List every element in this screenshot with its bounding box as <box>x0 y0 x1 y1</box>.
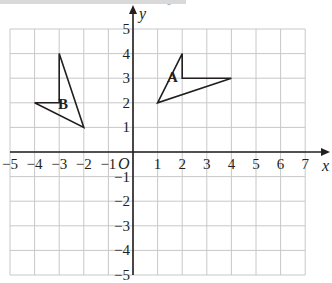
y-tick-label: −3 <box>114 218 130 234</box>
x-axis-label: x <box>321 157 329 174</box>
x-tick-label: −5 <box>2 156 18 172</box>
y-axis-arrow-icon <box>129 5 137 14</box>
x-tick-label: 1 <box>154 156 162 172</box>
y-tick-label: −1 <box>114 169 130 185</box>
x-tick-label: −2 <box>76 156 92 172</box>
x-tick-label: 6 <box>277 156 285 172</box>
y-axis-label: y <box>137 5 147 23</box>
y-tick-label: 5 <box>123 21 131 37</box>
x-tick-label: 3 <box>203 156 211 172</box>
x-tick-label: −4 <box>27 156 43 172</box>
y-tick-label: 4 <box>123 46 131 62</box>
x-axis-arrow-icon <box>321 148 330 156</box>
x-tick-label: 2 <box>178 156 186 172</box>
x-tick-label: −3 <box>51 156 67 172</box>
y-tick-label: 3 <box>123 70 131 86</box>
x-tick-label: 5 <box>252 156 260 172</box>
x-tick-label: 4 <box>228 156 236 172</box>
y-tick-label: 1 <box>123 119 131 135</box>
shape-label-b: B <box>58 96 68 112</box>
y-tick-label: −4 <box>114 242 130 258</box>
x-tick-label: 7 <box>301 156 309 172</box>
coordinate-grid-figure: xyO−5−4−3−2−1123456754321−1−2−3−4−5ABGRA… <box>0 0 332 283</box>
y-tick-label: −5 <box>114 267 130 283</box>
shape-label-a: A <box>167 69 178 85</box>
grade-banner <box>0 0 186 4</box>
y-tick-label: −2 <box>114 193 130 209</box>
y-tick-label: 2 <box>123 95 131 111</box>
coordinate-plane: xyO−5−4−3−2−1123456754321−1−2−3−4−5ABGRA… <box>0 0 332 283</box>
